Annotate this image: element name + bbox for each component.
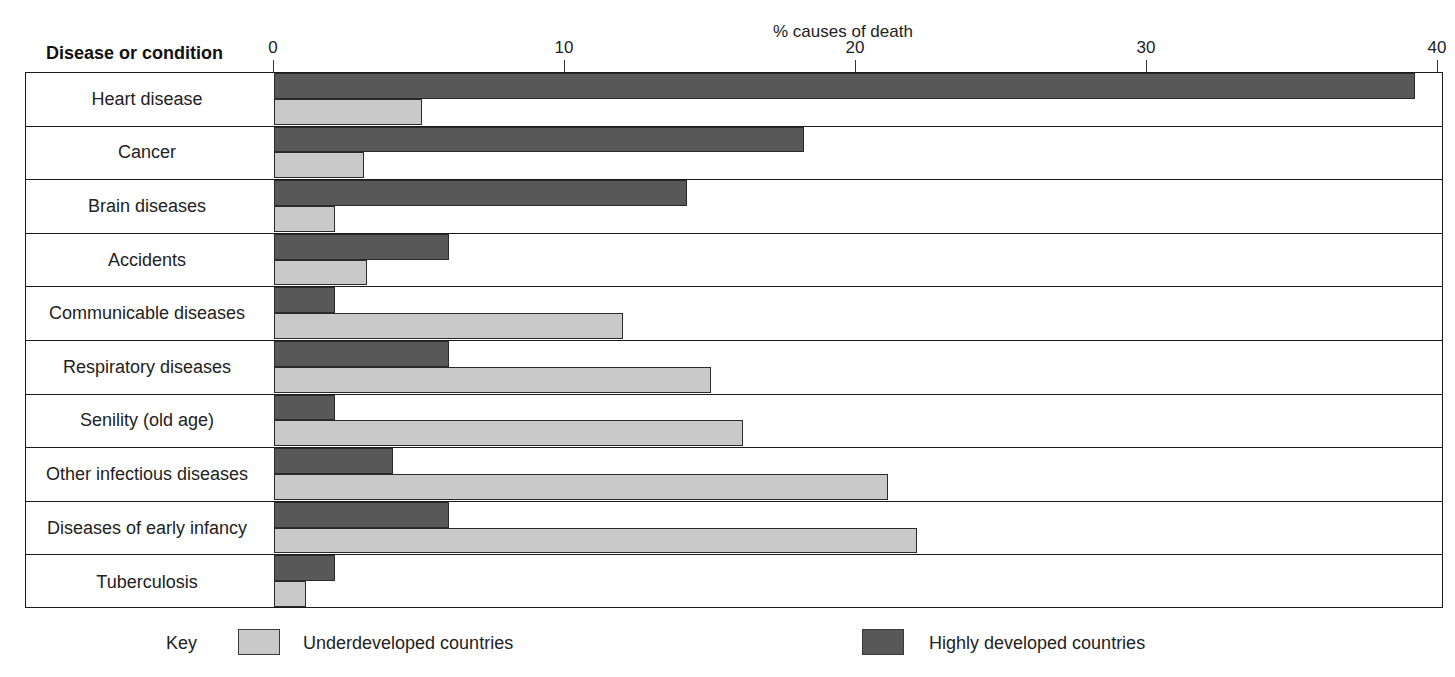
bar-underdeveloped	[274, 313, 623, 339]
bar-underdeveloped	[274, 367, 711, 393]
x-tick-label-40: 40	[1428, 38, 1447, 58]
category-label: Cancer	[26, 127, 274, 180]
bar-underdeveloped	[274, 260, 367, 286]
chart-row: Heart disease	[26, 73, 1442, 127]
plot-area: Heart diseaseCancerBrain diseasesAcciden…	[25, 72, 1443, 608]
bar-highly-developed	[274, 127, 804, 153]
y-axis-title: Disease or condition	[46, 43, 223, 64]
category-label: Respiratory diseases	[26, 341, 274, 394]
x-tick-mark-10	[564, 60, 565, 72]
category-label: Tuberculosis	[26, 555, 274, 609]
chart-row: Diseases of early infancy	[26, 502, 1442, 556]
x-tick-mark-30	[1146, 60, 1147, 72]
chart-row: Other infectious diseases	[26, 448, 1442, 502]
chart-row: Accidents	[26, 234, 1442, 288]
bar-underdeveloped	[274, 99, 422, 125]
category-label: Senility (old age)	[26, 395, 274, 448]
bar-underdeveloped	[274, 420, 743, 446]
bar-highly-developed	[274, 234, 449, 260]
bar-underdeveloped	[274, 206, 335, 232]
bar-highly-developed	[274, 341, 449, 367]
category-label: Other infectious diseases	[26, 448, 274, 501]
category-label: Accidents	[26, 234, 274, 287]
x-tick-mark-20	[855, 60, 856, 72]
x-axis-title: % causes of death	[773, 22, 913, 42]
bar-underdeveloped	[274, 581, 306, 607]
bar-highly-developed	[274, 555, 335, 581]
bar-highly-developed	[274, 448, 393, 474]
bar-underdeveloped	[274, 152, 364, 178]
x-tick-label-0: 0	[268, 38, 277, 58]
chart-row: Tuberculosis	[26, 555, 1442, 609]
bar-highly-developed	[274, 180, 687, 206]
bar-highly-developed	[274, 502, 449, 528]
bar-highly-developed	[274, 395, 335, 421]
category-label: Brain diseases	[26, 180, 274, 233]
legend-key-label: Key	[166, 633, 197, 654]
bar-underdeveloped	[274, 528, 917, 554]
chart-row: Respiratory diseases	[26, 341, 1442, 395]
chart-row: Communicable diseases	[26, 287, 1442, 341]
chart-row: Brain diseases	[26, 180, 1442, 234]
category-label: Heart disease	[26, 73, 274, 126]
bar-underdeveloped	[274, 474, 888, 500]
x-tick-label-20: 20	[846, 38, 865, 58]
chart-row: Cancer	[26, 127, 1442, 181]
legend-label-highly-developed: Highly developed countries	[929, 633, 1145, 654]
chart-row: Senility (old age)	[26, 395, 1442, 449]
legend-swatch-underdeveloped	[238, 629, 280, 655]
x-tick-mark-40	[1437, 60, 1438, 72]
legend-swatch-highly-developed	[862, 629, 904, 655]
chart-legend: Key Underdeveloped countries Highly deve…	[0, 617, 1455, 677]
bar-highly-developed	[274, 73, 1415, 99]
legend-label-underdeveloped: Underdeveloped countries	[303, 633, 513, 654]
x-tick-mark-0	[273, 60, 274, 72]
category-label: Communicable diseases	[26, 287, 274, 340]
x-tick-label-10: 10	[555, 38, 574, 58]
category-label: Diseases of early infancy	[26, 502, 274, 555]
x-tick-label-30: 30	[1137, 38, 1156, 58]
bar-highly-developed	[274, 287, 335, 313]
